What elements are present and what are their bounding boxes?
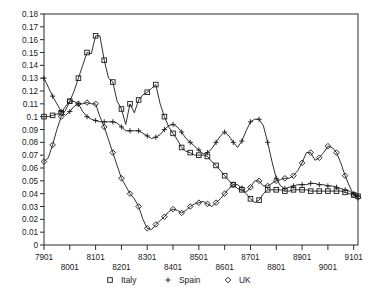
chart-svg: 00.010.020.030.040.050.060.070.080.090.1…	[0, 0, 371, 299]
x-axis-label: 8701	[241, 253, 260, 262]
y-axis-label: 0.12	[22, 87, 38, 96]
x-axis-label: 8201	[112, 263, 131, 272]
y-axis-label: 0.14	[22, 61, 38, 70]
legend-marker-uk	[225, 277, 231, 283]
y-axis-label: 0.05	[22, 177, 38, 186]
x-axis-label: 8601	[216, 263, 235, 272]
plot-area: 00.010.020.030.040.050.060.070.080.090.1…	[0, 0, 371, 299]
y-axis-label: 0.11	[23, 100, 39, 109]
y-axis-label: 0.15	[22, 49, 38, 58]
y-axis-label: 0.08	[22, 138, 38, 147]
y-axis-label: 0.13	[22, 74, 38, 83]
y-axis-label: 0.04	[22, 190, 38, 199]
legend-label-uk: UK	[239, 275, 251, 285]
legend-marker-italy	[108, 278, 113, 283]
x-axis-label: 9001	[319, 263, 338, 272]
y-axis-label: 0.01	[22, 228, 38, 237]
y-axis-label: 0.16	[22, 36, 38, 45]
y-axis-label: 0.06	[22, 164, 38, 173]
legend-label-italy: Italy	[121, 275, 137, 285]
y-axis-label: 0.17	[22, 23, 38, 32]
x-axis-label: 8901	[293, 253, 312, 262]
legend-label-spain: Spain	[179, 275, 201, 285]
series-line-uk	[44, 101, 358, 229]
y-axis-label: 0.07	[22, 151, 38, 160]
plot-frame	[44, 14, 358, 245]
y-axis-label: 0.09	[22, 126, 38, 135]
x-axis-label: 8401	[164, 263, 183, 272]
x-axis-label: 8301	[138, 253, 157, 262]
y-axis-label: 0	[33, 241, 38, 250]
x-axis-label: 7901	[35, 253, 54, 262]
y-axis-label: 0.1	[27, 113, 39, 122]
x-axis-label: 9101	[345, 253, 364, 262]
series-line-spain	[44, 78, 358, 196]
y-axis-label: 0.02	[22, 215, 38, 224]
x-axis-label: 8101	[87, 253, 106, 262]
x-axis-label: 8001	[61, 263, 80, 272]
y-axis-label: 0.18	[22, 10, 38, 19]
chart-container: 00.010.020.030.040.050.060.070.080.090.1…	[0, 0, 371, 299]
x-axis-label: 8501	[190, 253, 209, 262]
y-axis-label: 0.03	[22, 203, 38, 212]
x-axis-label: 8801	[267, 263, 286, 272]
